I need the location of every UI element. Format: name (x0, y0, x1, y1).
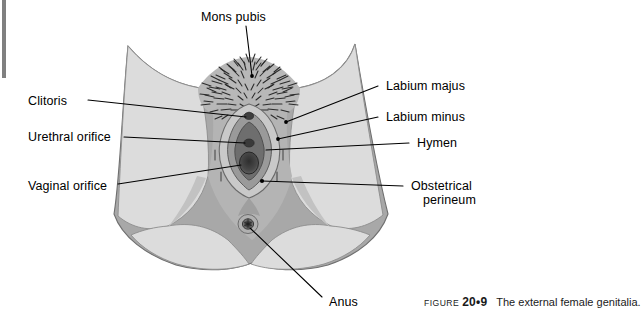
anus-region (238, 215, 258, 234)
right-thigh (289, 44, 383, 229)
label-clitoris: Clitoris (28, 94, 67, 108)
label-obstetrical-perineum-line2: perineum (411, 193, 476, 207)
label-anus: Anus (329, 295, 358, 309)
dot-mons-pubis (250, 74, 254, 78)
vaginal-orifice-node (240, 152, 259, 174)
label-mons-pubis: Mons pubis (201, 10, 266, 24)
clitoris-node (244, 113, 253, 120)
label-urethral-orifice: Urethral orifice (28, 130, 111, 144)
label-labium-majus: Labium majus (386, 79, 465, 93)
dot-obstetrical-perineum (260, 179, 264, 183)
label-vaginal-orifice: Vaginal orifice (28, 179, 107, 193)
caption-text: The external female genitalia. (496, 296, 640, 308)
caption-number: 20•9 (462, 295, 487, 309)
label-labium-minus: Labium minus (386, 110, 465, 124)
dot-labium-majus (284, 120, 288, 124)
label-hymen: Hymen (417, 136, 457, 150)
dot-labium-minus (276, 137, 280, 141)
figure-caption: FIGURE 20•9 The external female genitali… (424, 295, 641, 309)
label-obstetrical-perineum: Obstetricalperineum (411, 179, 476, 207)
caption-prefix: FIGURE (424, 298, 459, 308)
label-obstetrical-perineum-line1: Obstetrical (411, 179, 472, 193)
